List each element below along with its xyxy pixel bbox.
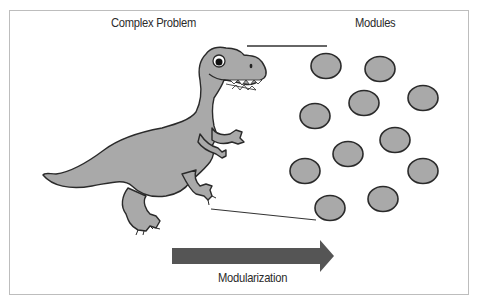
module-3 bbox=[349, 91, 379, 116]
module-8 bbox=[290, 159, 320, 184]
module-2 bbox=[365, 57, 395, 82]
diagram-artwork bbox=[0, 0, 478, 307]
module-6 bbox=[380, 128, 410, 153]
module-7 bbox=[333, 142, 363, 167]
dinosaur-icon bbox=[43, 47, 266, 231]
modules-group bbox=[290, 54, 438, 221]
module-5 bbox=[300, 104, 330, 129]
module-1 bbox=[311, 54, 341, 79]
module-10 bbox=[368, 187, 398, 212]
module-11 bbox=[315, 196, 345, 221]
modularization-arrow-icon bbox=[172, 240, 334, 272]
module-4 bbox=[408, 86, 438, 111]
bottom-bracket-line bbox=[211, 209, 316, 220]
module-9 bbox=[408, 159, 438, 184]
